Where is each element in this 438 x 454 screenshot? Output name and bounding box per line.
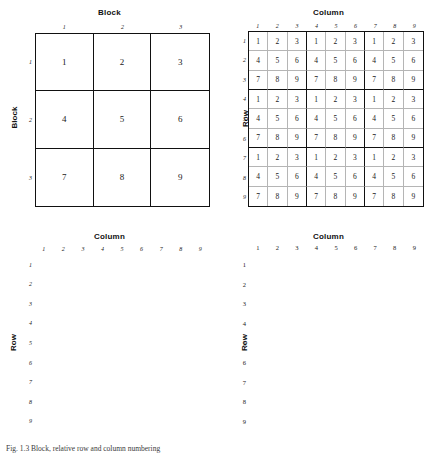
column-index-2: 2: [268, 244, 288, 253]
row-index-8: 8: [22, 392, 34, 412]
grid-cell: 7: [365, 129, 384, 148]
column-index-1: 1: [35, 23, 93, 32]
grid-cell: 7: [249, 71, 268, 90]
panel-block-title: Block: [0, 8, 219, 17]
column-index-6: 6: [346, 22, 366, 30]
grid-cell: 8: [268, 71, 287, 90]
grid-cell: 7: [307, 129, 326, 148]
grid-cell: 4: [365, 51, 384, 70]
grid-cell: 7: [36, 149, 94, 206]
grid-cell: 5: [94, 91, 152, 148]
grid-cell: 3: [151, 34, 209, 91]
column-index-6: 6: [346, 244, 366, 253]
grid-cell: 4: [36, 91, 94, 148]
grid-cell: 9: [346, 129, 365, 148]
grid-cell: 9: [288, 187, 307, 206]
block-grid: 123456789: [35, 33, 210, 207]
grid-cell: 8: [384, 187, 403, 206]
grid-cell: 4: [307, 51, 326, 70]
panel-triple-row-indices: 123456789: [236, 255, 248, 431]
grid-cell: 4: [365, 109, 384, 128]
grid-cell: 6: [404, 109, 423, 128]
grid-cell: 1: [365, 90, 384, 109]
grid-cell: 4: [249, 51, 268, 70]
grid-cell: 1: [365, 32, 384, 51]
grid-cell: 8: [268, 129, 287, 148]
column-index-5: 5: [112, 245, 132, 253]
grid-cell: 7: [307, 187, 326, 206]
column-index-7: 7: [365, 22, 385, 30]
grid-cell: 2: [326, 32, 345, 51]
grid-cell: 2: [384, 32, 403, 51]
grid-cell: 5: [326, 109, 345, 128]
column-index-3: 3: [152, 23, 210, 32]
column-index-8: 8: [171, 245, 191, 253]
grid-cell: 5: [268, 167, 287, 186]
grid-cell: 6: [404, 167, 423, 186]
grid-cell: 6: [288, 109, 307, 128]
grid-cell: 9: [346, 71, 365, 90]
row-index-9: 9: [236, 188, 248, 208]
grid-cell: 7: [365, 187, 384, 206]
row-index-9: 9: [236, 412, 248, 432]
grid-cell: 4: [365, 167, 384, 186]
panel-triple: Column Row 123456789 123456789 1,1,11,1,…: [219, 227, 438, 454]
grid-cell: 8: [384, 71, 403, 90]
grid-cell: 2: [384, 148, 403, 167]
grid-cell: 1: [365, 148, 384, 167]
row-index-7: 7: [22, 372, 34, 392]
grid-cell: 9: [288, 71, 307, 90]
grid-cell: 9: [404, 129, 423, 148]
column-index-6: 6: [132, 245, 152, 253]
grid-cell: 2: [94, 34, 152, 91]
row-index-3: 3: [14, 149, 34, 207]
row-index-1: 1: [22, 255, 34, 275]
row-index-9: 9: [22, 412, 34, 432]
grid-cell: 5: [326, 167, 345, 186]
grid-cell: 2: [268, 148, 287, 167]
grid-cell: 4: [249, 109, 268, 128]
column-index-8: 8: [385, 22, 405, 30]
row-index-2: 2: [236, 51, 248, 71]
row-index-4: 4: [236, 314, 248, 334]
row-index-8: 8: [236, 392, 248, 412]
panel-rowcol-row-indices: 123456789: [22, 255, 34, 431]
column-index-7: 7: [365, 244, 385, 253]
grid-cell: 9: [151, 149, 209, 206]
grid-cell: 5: [326, 51, 345, 70]
panel-triple-column-indices: 123456789: [248, 244, 424, 253]
panel-digits-title: Column: [219, 8, 438, 17]
grid-cell: 1: [307, 148, 326, 167]
column-index-8: 8: [385, 244, 405, 253]
row-index-3: 3: [22, 294, 34, 314]
grid-cell: 2: [268, 90, 287, 109]
panel-triple-title: Column: [219, 232, 438, 241]
grid-cell: 6: [404, 51, 423, 70]
panel-digits: Column Row 123456789 123456789 123123123…: [219, 0, 438, 227]
grid-cell: 2: [268, 32, 287, 51]
grid-cell: 3: [404, 32, 423, 51]
grid-cell: 5: [384, 109, 403, 128]
grid-cell: 8: [326, 129, 345, 148]
row-index-6: 6: [236, 129, 248, 149]
column-index-7: 7: [151, 245, 171, 253]
panel-block-column-indices: 123: [35, 23, 210, 32]
row-index-1: 1: [236, 255, 248, 275]
column-index-5: 5: [326, 244, 346, 253]
column-index-2: 2: [268, 22, 288, 30]
row-index-2: 2: [14, 91, 34, 149]
column-index-3: 3: [73, 245, 93, 253]
grid-cell: 5: [268, 109, 287, 128]
panel-block: Block Block 123 123 123456789: [0, 0, 219, 227]
grid-cell: 2: [384, 90, 403, 109]
digits-grid: 1231231234564564567897897891231231234564…: [248, 31, 424, 207]
grid-cell: 6: [288, 167, 307, 186]
row-index-4: 4: [22, 314, 34, 334]
grid-cell: 5: [268, 51, 287, 70]
grid-cell: 3: [288, 90, 307, 109]
grid-cell: 9: [288, 129, 307, 148]
panel-rowcol-side-label: Row: [9, 323, 18, 363]
column-index-3: 3: [287, 244, 307, 253]
row-index-3: 3: [236, 294, 248, 314]
grid-cell: 6: [346, 51, 365, 70]
